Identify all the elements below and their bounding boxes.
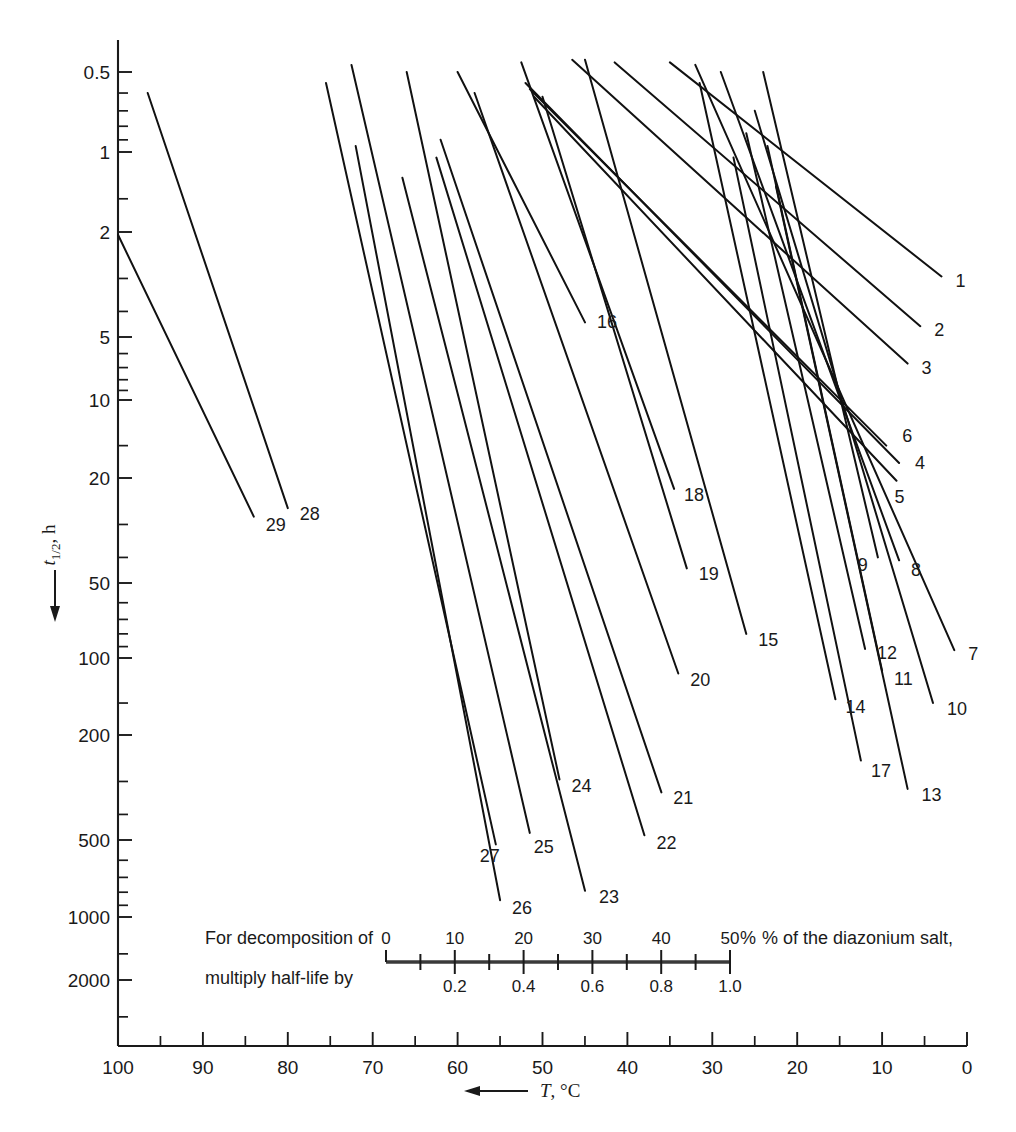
y-axis-ticks (118, 72, 132, 1017)
curve-label-16: 16 (597, 312, 617, 332)
curve-label-15: 15 (758, 630, 778, 650)
curve-line-16 (458, 72, 585, 322)
curve-label-23: 23 (599, 887, 619, 907)
data-curves-group (118, 60, 954, 900)
x-axis-ticks (118, 1032, 967, 1046)
nomogram-figure: 0.512510205010020050010002000 1009080706… (0, 0, 1016, 1132)
curve-label-7: 7 (968, 644, 978, 664)
legend-percent-label: 30 (583, 929, 602, 948)
legend-percent-label: 20 (514, 929, 533, 948)
curve-line-17 (734, 158, 861, 761)
legend-multiplier-label: 0.6 (581, 977, 605, 996)
x-axis-title: T, °C (540, 1080, 580, 1101)
axes-group (118, 40, 967, 1046)
y-tick-label: 200 (78, 725, 110, 746)
y-tick-label: 100 (78, 648, 110, 669)
curve-line-8 (721, 72, 899, 560)
x-tick-label: 40 (617, 1057, 638, 1078)
curve-label-13: 13 (922, 785, 942, 805)
y-axis-tick-labels: 0.512510205010020050010002000 (68, 62, 110, 991)
legend-line2-label: multiply half-life by (205, 968, 353, 988)
curve-line-14 (700, 83, 836, 699)
legend-percent-label: 40 (652, 929, 671, 948)
x-tick-label: 60 (447, 1057, 468, 1078)
x-axis-arrow-head (464, 1086, 480, 1096)
x-tick-label: 80 (277, 1057, 298, 1078)
legend-multiplier-label: 0.2 (443, 977, 467, 996)
y-axis-title-unit: , h (38, 524, 59, 544)
legend-multiplier-ticks (420, 962, 730, 974)
legend-multiplier-labels: 0.20.40.60.81.0 (443, 977, 742, 996)
x-tick-label: 90 (192, 1057, 213, 1078)
legend-line1-label: For decomposition of (205, 928, 374, 948)
y-tick-label: 2 (99, 222, 110, 243)
x-tick-label: 100 (102, 1057, 134, 1078)
curve-label-20: 20 (690, 670, 710, 690)
curve-label-2: 2 (934, 320, 944, 340)
curve-label-6: 6 (902, 426, 912, 446)
curve-line-25 (352, 65, 530, 833)
x-tick-label: 50 (532, 1057, 553, 1078)
x-tick-label: 70 (362, 1057, 383, 1078)
legend-inset: For decomposition of multiply half-life … (205, 928, 953, 996)
legend-percent-label: 0 (381, 929, 390, 948)
legend-percent-unit: % (740, 928, 756, 948)
legend-multiplier-label: 0.8 (649, 977, 673, 996)
x-tick-label: 10 (872, 1057, 893, 1078)
legend-percent-labels: 01020304050 (381, 929, 739, 948)
curve-label-28: 28 (300, 504, 320, 524)
curve-line-27 (326, 83, 496, 844)
curve-label-21: 21 (673, 788, 693, 808)
curve-line-21 (441, 140, 662, 793)
curve-line-26 (356, 146, 500, 900)
curve-label-25: 25 (534, 837, 554, 857)
curve-label-4: 4 (915, 453, 925, 473)
curve-label-10: 10 (947, 699, 967, 719)
curve-line-2 (615, 62, 921, 326)
curve-line-28 (148, 93, 288, 508)
curve-line-1 (670, 62, 942, 276)
y-tick-label: 50 (89, 573, 110, 594)
legend-percent-label: 10 (445, 929, 464, 948)
curve-line-29 (118, 235, 254, 517)
y-axis-title-subscript: 1/2 (48, 544, 63, 561)
y-tick-label: 2000 (68, 970, 110, 991)
curve-label-27: 27 (480, 846, 500, 866)
curve-line-13 (776, 187, 908, 789)
curve-line-3 (572, 60, 907, 364)
legend-percent-label: 50 (721, 929, 740, 948)
y-axis-title: t1/2, h (38, 524, 63, 565)
curve-line-15 (585, 60, 746, 634)
legend-multiplier-label: 0.4 (512, 977, 536, 996)
curve-label-9: 9 (858, 555, 868, 575)
x-tick-label: 20 (787, 1057, 808, 1078)
y-tick-label: 20 (89, 468, 110, 489)
curve-label-24: 24 (571, 776, 591, 796)
y-tick-label: 1 (99, 142, 110, 163)
y-axis-arrow-head (50, 606, 60, 622)
y-tick-label: 0.5 (84, 62, 110, 83)
y-tick-label: 5 (99, 327, 110, 348)
curve-end-labels-group: 1234567891011121314151617181920212223242… (266, 271, 978, 919)
curve-label-1: 1 (956, 271, 966, 291)
y-axis-title-group: t1/2, h (38, 524, 63, 622)
x-tick-label: 30 (702, 1057, 723, 1078)
curve-label-11: 11 (894, 669, 913, 689)
y-tick-label: 500 (78, 830, 110, 851)
curve-label-29: 29 (266, 515, 286, 535)
curve-label-14: 14 (845, 697, 865, 717)
curve-label-26: 26 (512, 898, 532, 918)
legend-tail-text: % of the diazonium salt, (762, 928, 953, 948)
curve-label-5: 5 (895, 487, 905, 507)
x-axis-title-unit: , °C (551, 1080, 581, 1101)
legend-tail-label: %% of the diazonium salt, (740, 928, 953, 948)
curve-label-8: 8 (911, 560, 921, 580)
curve-line-9 (763, 72, 878, 557)
x-axis-tick-labels: 1009080706050403020100 (102, 1057, 972, 1078)
x-axis-title-group: T, °C (464, 1080, 580, 1101)
curve-label-19: 19 (699, 564, 719, 584)
chart-svg: 0.512510205010020050010002000 1009080706… (0, 0, 1016, 1132)
curve-label-22: 22 (656, 833, 676, 853)
curve-label-18: 18 (684, 485, 704, 505)
curve-label-12: 12 (877, 643, 897, 663)
